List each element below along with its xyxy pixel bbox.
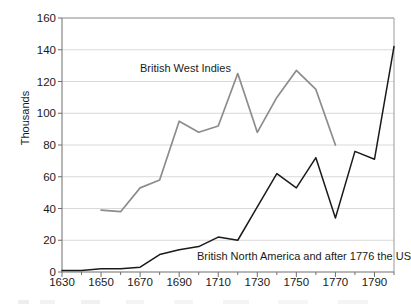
series-line-british-north-america: [62, 47, 394, 271]
series-label-british-west-indies: British West Indies: [140, 62, 231, 74]
x-tick-label: 1790: [362, 276, 388, 288]
series-label-british-north-america: British North America and after 1776 the…: [197, 250, 411, 262]
cropped-caption-fragment: [18, 300, 390, 304]
x-tick-label: 1690: [166, 276, 192, 288]
x-tick-label: 1670: [127, 276, 153, 288]
x-tick-label: 1730: [244, 276, 270, 288]
x-tick-label: 1750: [284, 276, 310, 288]
x-tick-label: 1710: [205, 276, 231, 288]
x-tick-label: 1770: [323, 276, 349, 288]
series-line-british-west-indies: [101, 70, 335, 211]
x-tick-label: 1650: [88, 276, 114, 288]
x-tick-label: 1630: [49, 276, 75, 288]
